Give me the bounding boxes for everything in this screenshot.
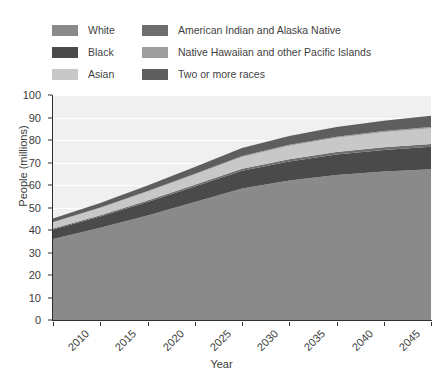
plot-area bbox=[53, 95, 431, 320]
y-axis-tick-mark bbox=[48, 297, 52, 298]
legend-item-label: Native Hawaiian and other Pacific Island… bbox=[178, 47, 371, 58]
x-axis-tick-mark bbox=[242, 322, 243, 326]
x-axis-tick-mark bbox=[337, 322, 338, 326]
y-axis-tick-mark bbox=[48, 275, 52, 276]
x-axis-tick-label: 2015 bbox=[113, 328, 138, 353]
y-axis-tick-mark bbox=[48, 230, 52, 231]
legend-swatch-icon bbox=[52, 69, 78, 80]
x-axis-tick-mark bbox=[53, 322, 54, 326]
x-axis-tick-label: 2040 bbox=[350, 328, 375, 353]
legend-item[interactable]: Black bbox=[52, 41, 115, 63]
y-axis-line bbox=[52, 95, 53, 321]
y-axis-tick-label: 10 bbox=[29, 292, 41, 303]
y-axis-tick-label: 30 bbox=[29, 247, 41, 258]
x-axis-tick-label: 2025 bbox=[208, 328, 233, 353]
y-axis-tick-label: 60 bbox=[29, 180, 41, 191]
legend-item-label: White bbox=[88, 25, 115, 36]
y-axis-tick-label: 80 bbox=[29, 135, 41, 146]
x-axis-tick-mark bbox=[148, 322, 149, 326]
y-axis-tick-label: 90 bbox=[29, 112, 41, 123]
x-axis-tick-label: 2030 bbox=[255, 328, 280, 353]
x-axis-title: Year bbox=[0, 358, 443, 370]
x-axis-tick-labels: 201020152020202520302035204020452050 bbox=[53, 322, 431, 362]
x-axis-tick-mark bbox=[289, 322, 290, 326]
legend-item-label: Asian bbox=[88, 69, 114, 80]
legend-swatch-icon bbox=[52, 25, 78, 36]
area-series-white bbox=[53, 169, 431, 320]
x-axis-tick-mark bbox=[195, 322, 196, 326]
y-axis-tick-label: 40 bbox=[29, 225, 41, 236]
legend-item[interactable]: White bbox=[52, 19, 115, 41]
legend-item-label: Black bbox=[88, 47, 114, 58]
y-axis-tick-label: 50 bbox=[29, 202, 41, 213]
x-axis-tick-label: 2020 bbox=[161, 328, 186, 353]
x-axis-tick-label: 2045 bbox=[397, 328, 422, 353]
legend-item[interactable]: Native Hawaiian and other Pacific Island… bbox=[142, 41, 371, 63]
legend-item[interactable]: American Indian and Alaska Native bbox=[142, 19, 371, 41]
y-axis-tick-label: 70 bbox=[29, 157, 41, 168]
legend-item[interactable]: Two or more races bbox=[142, 63, 371, 85]
x-axis-tick-label: 2035 bbox=[302, 328, 327, 353]
chart-legend: WhiteBlackAsian American Indian and Alas… bbox=[52, 19, 432, 81]
y-axis-tick-mark bbox=[48, 140, 52, 141]
y-axis-tick-label: 0 bbox=[35, 315, 41, 326]
legend-item-label: Two or more races bbox=[178, 69, 265, 80]
y-axis-tick-label: 20 bbox=[29, 270, 41, 281]
legend-swatch-icon bbox=[52, 47, 78, 58]
legend-swatch-icon bbox=[142, 25, 168, 36]
y-axis-title: People (millions) bbox=[17, 96, 29, 236]
legend-swatch-icon bbox=[142, 47, 168, 58]
y-axis-tick-mark bbox=[48, 207, 52, 208]
y-axis-tick-mark bbox=[48, 185, 52, 186]
legend-swatch-icon bbox=[142, 69, 168, 80]
y-axis-tick-mark bbox=[48, 117, 52, 118]
y-axis-tick-mark bbox=[48, 95, 52, 96]
x-axis-tick-mark bbox=[100, 322, 101, 326]
y-axis-tick-mark bbox=[48, 252, 52, 253]
legend-column-right: American Indian and Alaska NativeNative … bbox=[142, 19, 371, 85]
legend-column-left: WhiteBlackAsian bbox=[52, 19, 115, 85]
legend-item-label: American Indian and Alaska Native bbox=[178, 25, 341, 36]
y-axis-tick-mark bbox=[48, 320, 52, 321]
x-axis-tick-mark bbox=[384, 322, 385, 326]
x-axis-tick-mark bbox=[431, 322, 432, 326]
stacked-area-series-group bbox=[53, 95, 431, 320]
y-axis-tick-mark bbox=[48, 162, 52, 163]
x-axis-tick-label: 2010 bbox=[66, 328, 91, 353]
legend-item[interactable]: Asian bbox=[52, 63, 115, 85]
